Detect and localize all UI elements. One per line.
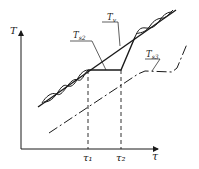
- y-axis-label: T: [10, 25, 18, 36]
- tau1-label: τ₁: [83, 152, 93, 163]
- ts2-leader: [70, 41, 106, 70]
- oscillation-curve-lower-b: [44, 70, 88, 102]
- ts2-curve: [88, 37, 135, 70]
- ts3-label: Ts3: [146, 49, 159, 60]
- tv-label: Tv: [107, 12, 117, 23]
- ts3-leader: [145, 59, 160, 71]
- ts3-curve: [49, 44, 187, 133]
- tau2-label: τ₂: [116, 152, 126, 163]
- x-axis-label: τ: [152, 150, 159, 163]
- tv-leader: [102, 22, 120, 46]
- diagram-canvas: T τ τ₁ τ₂ Tv Ts2 Ts3: [0, 0, 199, 169]
- oscillation-curve-upper-b: [136, 10, 173, 34]
- ts2-label: Ts2: [73, 30, 86, 41]
- oscillation-curve-upper: [135, 12, 172, 37]
- oscillation-curve-lower: [42, 70, 88, 103]
